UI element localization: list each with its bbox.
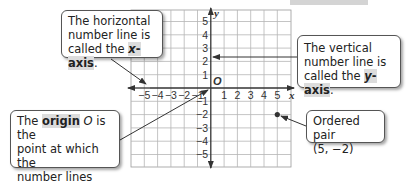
- svg-text:−4: −4: [196, 135, 208, 147]
- svg-text:−3: −3: [165, 89, 177, 101]
- y-axis-label: y: [212, 7, 219, 19]
- y-axis-callout: The vertical number line is called the y…: [297, 35, 401, 88]
- svg-text:2: 2: [234, 89, 240, 101]
- svg-text:−5: −5: [138, 89, 150, 101]
- svg-text:5: 5: [202, 15, 208, 27]
- x-axis-label: x: [288, 89, 295, 101]
- svg-text:2: 2: [202, 55, 208, 67]
- ordered-pair-point: [275, 112, 280, 117]
- svg-text:1: 1: [202, 69, 208, 81]
- svg-text:−4: −4: [152, 89, 164, 101]
- ordered-pair-callout: Ordered pair (5, −2): [306, 110, 385, 143]
- origin-callout: The origin O is the point at which the n…: [10, 110, 120, 168]
- svg-text:−2: −2: [178, 89, 190, 101]
- x-axis-callout: The horizontal number line is called the…: [61, 10, 163, 58]
- svg-text:4: 4: [261, 89, 267, 101]
- svg-text:3: 3: [202, 42, 208, 54]
- svg-text:−2: −2: [196, 108, 208, 120]
- svg-text:4: 4: [202, 29, 208, 41]
- ordered-pair-leader: [281, 116, 306, 126]
- svg-text:1: 1: [221, 89, 227, 101]
- svg-text:5: 5: [274, 89, 280, 101]
- origin-term: origin: [42, 114, 80, 128]
- origin-label: O: [213, 75, 222, 87]
- svg-text:−3: −3: [196, 122, 208, 134]
- svg-text:−5: −5: [196, 148, 208, 160]
- x-tick-labels: −5 −4 −3 −2 −1 1 2 3 4 5: [138, 89, 280, 101]
- svg-text:−1: −1: [196, 95, 208, 107]
- svg-text:3: 3: [248, 89, 254, 101]
